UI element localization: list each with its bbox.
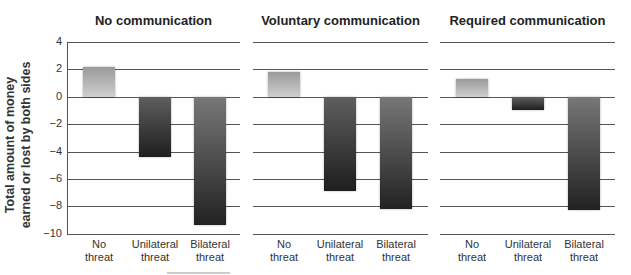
bar-unilateral-threat — [512, 97, 544, 111]
panel-title: Required communication — [440, 13, 615, 28]
x-tick-label: Unilateral threat — [310, 238, 370, 264]
x-tick-label: Unilateral threat — [125, 238, 185, 264]
x-tick-label: Bilateral threat — [366, 238, 426, 264]
bar-bilateral-threat — [380, 97, 412, 209]
y-axis-label-line-2: earned or lost by both sides — [18, 45, 34, 245]
bar-no-threat — [83, 67, 115, 97]
bar-bilateral-threat — [194, 97, 226, 226]
y-tick-label: −2 — [38, 117, 62, 129]
x-tick-label: Bilateral threat — [180, 238, 240, 264]
x-tick-label: No threat — [69, 238, 129, 264]
y-tick-label: −4 — [38, 145, 62, 157]
y-tick-label: −6 — [38, 172, 62, 184]
bar-unilateral-threat — [139, 97, 171, 157]
y-axis-label-line-1: Total amount of money — [2, 45, 18, 245]
bar-bilateral-threat — [568, 97, 600, 211]
x-tick-label: Unilateral threat — [498, 238, 558, 264]
y-tick-label: 0 — [38, 90, 62, 102]
gridline — [440, 234, 615, 235]
y-axis-label: Total amount of money earned or lost by … — [2, 45, 42, 245]
y-axis-line — [67, 42, 68, 234]
decorative-line — [167, 272, 230, 274]
y-tick-label: −8 — [38, 199, 62, 211]
y-tick-label: −10 — [38, 227, 62, 239]
gridline — [253, 234, 428, 235]
gridline — [67, 234, 240, 235]
bar-no-threat — [268, 72, 300, 97]
y-tick-label: 4 — [38, 35, 62, 47]
panel-title: No communication — [67, 13, 240, 28]
gridline — [253, 69, 428, 70]
gridline — [440, 42, 615, 43]
gridline — [440, 69, 615, 70]
gridline — [67, 42, 240, 43]
panel-title: Voluntary communication — [253, 13, 428, 28]
x-tick-label: No threat — [254, 238, 314, 264]
x-tick-label: Bilateral threat — [554, 238, 614, 264]
x-tick-label: No threat — [442, 238, 502, 264]
gridline — [253, 42, 428, 43]
bar-unilateral-threat — [324, 97, 356, 192]
y-tick-label: 2 — [38, 62, 62, 74]
bar-no-threat — [456, 79, 488, 97]
